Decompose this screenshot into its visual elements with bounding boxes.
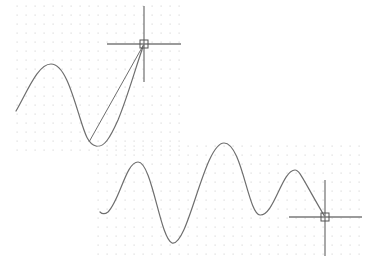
spline-curve[interactable] (16, 44, 144, 146)
crosshair-cursor-icon (107, 6, 181, 82)
before-panel (16, 6, 181, 151)
drawing-canvas[interactable] (0, 0, 377, 271)
crosshair-cursor-icon (289, 180, 362, 256)
after-panel (98, 143, 363, 256)
spline-curve[interactable] (100, 143, 325, 243)
grid-dots (17, 6, 180, 151)
rubber-band-line (89, 44, 144, 142)
